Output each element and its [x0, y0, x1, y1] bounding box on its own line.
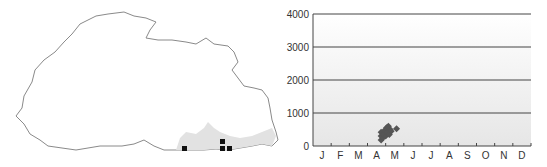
country-outline — [16, 12, 278, 150]
y-tick-label: 1000 — [287, 108, 310, 119]
marker — [220, 146, 225, 151]
x-tick-label: A — [446, 150, 453, 161]
marker — [220, 139, 225, 144]
x-tick-label: A — [373, 150, 380, 161]
x-tick-label: J — [410, 150, 415, 161]
y-tick-label: 3000 — [287, 42, 310, 53]
x-tick-label: M — [354, 150, 362, 161]
marker — [227, 146, 232, 151]
elevation-month-chart: 01000200030004000 JFMAMJJASOND — [270, 0, 547, 167]
x-tick-label: J — [320, 150, 325, 161]
x-tick-label: N — [500, 150, 507, 161]
y-tick-label: 2000 — [287, 75, 310, 86]
x-tick-label: F — [337, 150, 343, 161]
distribution-map — [0, 0, 290, 167]
marker — [182, 146, 187, 151]
x-tick-label: D — [518, 150, 525, 161]
x-tick-label: M — [391, 150, 399, 161]
x-tick-label: O — [482, 150, 490, 161]
x-tick-label: S — [464, 150, 471, 161]
y-tick-label: 0 — [303, 141, 309, 152]
y-tick-label: 4000 — [287, 9, 310, 20]
y-tick-labels: 01000200030004000 — [287, 9, 310, 152]
x-tick-label: J — [429, 150, 434, 161]
